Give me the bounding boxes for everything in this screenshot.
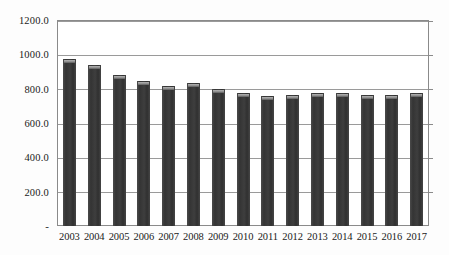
x-axis-label-2004: 2004 [84, 231, 105, 242]
bar-2011 [261, 96, 274, 226]
x-axis-label-2015: 2015 [357, 231, 378, 242]
bar-2015 [361, 95, 374, 226]
x-axis-label-2003: 2003 [59, 231, 80, 242]
bar-2013 [311, 93, 324, 226]
y-axis-label-0: - [45, 220, 49, 232]
bar-series [57, 20, 429, 226]
bar-highlight-cap [262, 97, 273, 100]
y-axis-label-200: 200.0 [24, 186, 49, 197]
bar-highlight-cap [386, 96, 397, 99]
y-axis-label-1000: 1000.0 [19, 49, 49, 60]
x-axis-label-2013: 2013 [307, 231, 328, 242]
bar-2003 [63, 59, 76, 226]
bar-highlight-cap [337, 94, 348, 97]
bar-2005 [113, 75, 126, 226]
x-axis-label-2017: 2017 [406, 231, 427, 242]
bar-2009 [212, 89, 225, 226]
bar-2016 [385, 95, 398, 226]
bar-highlight-cap [312, 94, 323, 97]
bar-highlight-cap [114, 76, 125, 79]
bar-highlight-cap [89, 66, 100, 69]
x-axis: 2003200420052006200720082009201020112012… [57, 231, 429, 251]
bar-2007 [162, 86, 175, 226]
x-axis-label-2012: 2012 [282, 231, 303, 242]
y-axis-label-400: 400.0 [24, 152, 49, 163]
bar-highlight-cap [411, 94, 422, 97]
x-axis-label-2006: 2006 [133, 231, 154, 242]
x-axis-label-2016: 2016 [381, 231, 402, 242]
bar-2017 [410, 93, 423, 226]
bar-2014 [336, 93, 349, 226]
x-axis-label-2010: 2010 [233, 231, 254, 242]
bar-highlight-cap [362, 96, 373, 99]
bar-2006 [137, 81, 150, 226]
x-axis-label-2011: 2011 [258, 231, 278, 242]
y-axis-label-600: 600.0 [24, 118, 49, 129]
y-axis-label-1200: 1200.0 [19, 15, 49, 26]
bar-2010 [237, 93, 250, 226]
bar-2004 [88, 65, 101, 226]
bar-highlight-cap [188, 84, 199, 87]
bar-highlight-cap [163, 87, 174, 90]
bar-highlight-cap [213, 90, 224, 93]
bar-highlight-cap [238, 94, 249, 97]
x-axis-label-2009: 2009 [208, 231, 229, 242]
bar-highlight-cap [138, 82, 149, 85]
y-axis-label-800: 800.0 [24, 83, 49, 94]
bar-highlight-cap [64, 60, 75, 63]
y-axis: -200.0400.0600.0800.01000.01200.0 [0, 0, 55, 255]
bar-2012 [286, 95, 299, 226]
bar-2008 [187, 83, 200, 226]
bar-chart: -200.0400.0600.0800.01000.01200.0 200320… [0, 0, 449, 255]
x-axis-label-2014: 2014 [332, 231, 353, 242]
x-axis-label-2008: 2008 [183, 231, 204, 242]
x-axis-label-2007: 2007 [158, 231, 179, 242]
bar-highlight-cap [287, 96, 298, 99]
x-axis-label-2005: 2005 [109, 231, 130, 242]
